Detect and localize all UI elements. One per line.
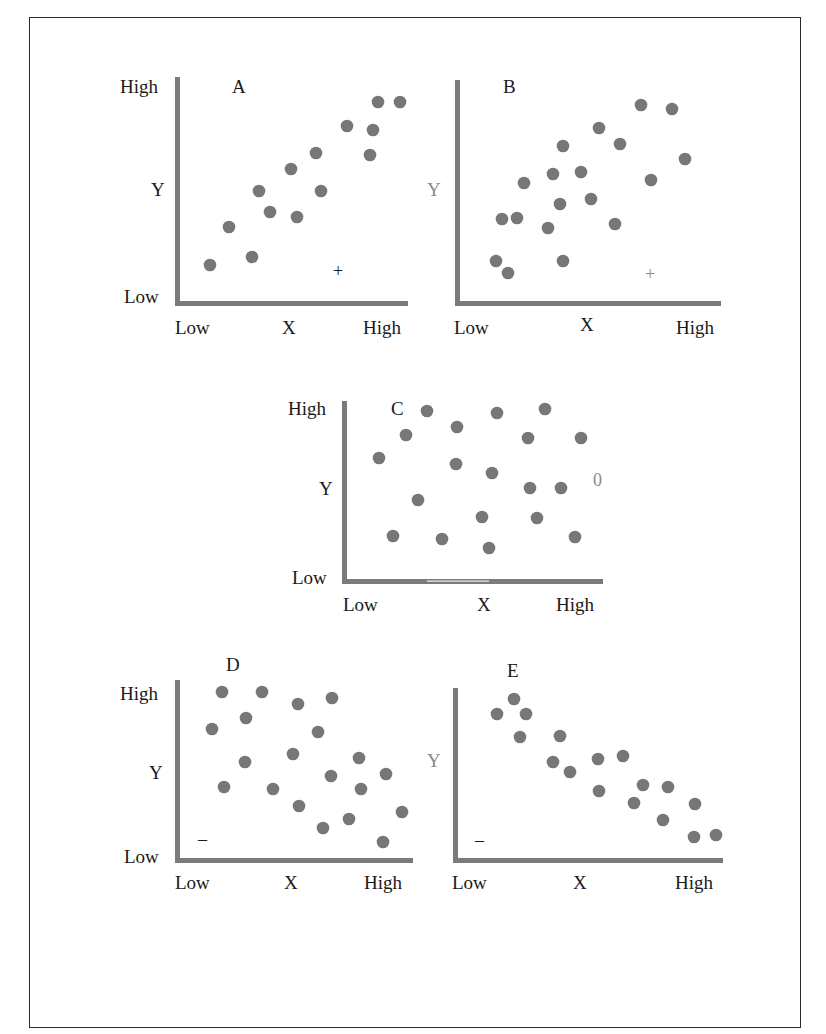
data-point — [476, 511, 489, 524]
y-axis — [175, 680, 180, 863]
y-low-label: Low — [124, 846, 159, 867]
data-point — [645, 174, 658, 187]
data-points — [373, 403, 588, 555]
x-low-label: Low — [452, 872, 487, 893]
panel-title: B — [503, 76, 516, 97]
x-axis — [453, 858, 723, 863]
data-point — [450, 458, 463, 471]
data-point — [253, 185, 266, 198]
data-point — [267, 783, 280, 796]
data-point — [592, 753, 605, 766]
data-point — [508, 693, 521, 706]
data-point — [380, 768, 393, 781]
x-low-label: Low — [175, 317, 210, 338]
y-axis-label: Y — [149, 762, 163, 783]
data-point — [256, 686, 269, 699]
y-high-label: High — [120, 683, 159, 704]
data-point — [246, 251, 259, 264]
x-axis-label: X — [573, 872, 587, 893]
data-point — [524, 482, 537, 495]
data-point — [412, 494, 425, 507]
data-point — [387, 530, 400, 543]
y-axis-label: Y — [151, 179, 165, 200]
data-point — [490, 255, 503, 268]
data-point — [514, 731, 527, 744]
data-point — [547, 168, 560, 181]
data-point — [310, 147, 323, 160]
y-low-label: Low — [292, 567, 327, 588]
data-point — [522, 432, 535, 445]
data-point — [502, 267, 515, 280]
data-point — [557, 255, 570, 268]
panel-a: High A Y Low Low X High + — [120, 76, 408, 338]
data-point — [341, 120, 354, 133]
data-point — [710, 829, 723, 842]
data-point — [511, 212, 524, 225]
panel-title: A — [232, 76, 246, 97]
data-point — [343, 813, 356, 826]
data-point — [367, 124, 380, 137]
x-high-label: High — [363, 317, 402, 338]
data-point — [325, 770, 338, 783]
data-point — [486, 467, 499, 480]
data-point — [396, 806, 409, 819]
panel-e: E Y Low X High – — [427, 660, 723, 893]
x-axis-label: X — [580, 314, 594, 335]
data-point — [542, 222, 555, 235]
x-axis — [175, 301, 408, 306]
data-point — [547, 756, 560, 769]
data-point — [662, 781, 675, 794]
x-axis-label: X — [284, 872, 298, 893]
data-point — [291, 211, 304, 224]
x-high-label: High — [556, 594, 595, 615]
data-point — [421, 405, 434, 418]
data-point — [657, 814, 670, 827]
x-axis — [175, 858, 413, 863]
x-axis — [455, 301, 721, 306]
panel-title: D — [226, 654, 240, 675]
data-point — [491, 407, 504, 420]
y-axis-label: Y — [427, 750, 441, 771]
data-point — [451, 421, 464, 434]
correlation-sign: – — [197, 829, 208, 849]
correlation-sign: + — [333, 261, 343, 281]
data-point — [317, 822, 330, 835]
data-point — [688, 831, 701, 844]
data-point — [218, 781, 231, 794]
data-point — [666, 103, 679, 116]
data-points — [206, 686, 409, 849]
data-point — [531, 512, 544, 525]
data-point — [585, 193, 598, 206]
x-high-label: High — [675, 872, 714, 893]
data-points — [490, 99, 692, 280]
data-point — [557, 140, 570, 153]
data-point — [285, 163, 298, 176]
data-point — [679, 153, 692, 166]
y-axis — [455, 80, 460, 306]
x-low-label: Low — [175, 872, 210, 893]
data-point — [394, 96, 407, 109]
data-point — [564, 766, 577, 779]
data-point — [315, 185, 328, 198]
data-point — [555, 482, 568, 495]
data-point — [518, 177, 531, 190]
data-point — [554, 198, 567, 211]
y-axis-label: Y — [427, 179, 441, 200]
data-point — [609, 218, 622, 231]
data-point — [689, 798, 702, 811]
y-high-label: High — [120, 76, 159, 97]
data-point — [593, 122, 606, 135]
data-point — [373, 452, 386, 465]
data-point — [593, 785, 606, 798]
data-point — [326, 692, 339, 705]
data-point — [554, 730, 567, 743]
x-low-label: Low — [454, 317, 489, 338]
data-point — [635, 99, 648, 112]
data-point — [617, 750, 630, 763]
data-point — [377, 836, 390, 849]
data-point — [355, 783, 368, 796]
data-point — [364, 149, 377, 162]
scatterplot-figure: High A Y Low Low X High + B Y Low X High… — [0, 0, 826, 1034]
panel-d: D High Y Low Low X High – — [120, 654, 413, 893]
correlation-sign: – — [474, 830, 485, 850]
